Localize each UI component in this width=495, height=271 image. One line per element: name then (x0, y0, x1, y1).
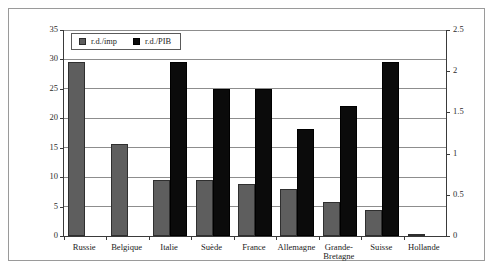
y-axis-left-label: 30 (50, 54, 59, 63)
x-axis-category-label: Russie (63, 243, 105, 252)
bar-rd-imp (111, 144, 128, 236)
x-axis-tickmark (361, 236, 362, 240)
bar-group (149, 30, 191, 236)
y-axis-right-label: 0 (453, 231, 457, 240)
x-axis-tickmark (234, 236, 235, 240)
bar-group (319, 30, 361, 236)
x-axis-tickmark (404, 236, 405, 240)
bar-rd-pib (170, 62, 187, 236)
chart-frame: 0510152025303500.511.522.5 r.d./imp r.d.… (8, 8, 485, 261)
legend-item-rd-imp: r.d./imp (79, 37, 117, 46)
bar-rd-imp (153, 180, 170, 236)
bar-rd-pib (340, 106, 357, 236)
y-axis-left-label: 35 (50, 25, 59, 34)
bar-rd-imp (408, 234, 425, 236)
legend-item-rd-pib: r.d./PIB (133, 37, 171, 46)
y-axis-right-tickmark (446, 71, 450, 72)
legend-label-rd-imp: r.d./imp (91, 37, 117, 46)
y-axis-right-label: 2.5 (453, 25, 464, 34)
x-axis-tickmark (106, 236, 107, 240)
bar-rd-imp (68, 62, 85, 236)
bar-group (106, 30, 148, 236)
y-axis-right-tickmark (446, 30, 450, 31)
bar-rd-imp (196, 180, 213, 236)
x-axis-category-label: Allemagne (275, 243, 317, 252)
bar-group (276, 30, 318, 236)
y-axis-right-label: 2 (453, 66, 457, 75)
x-axis-tickmark (276, 236, 277, 240)
x-axis-category-label: Grande- Bretagne (318, 243, 360, 262)
chart-legend: r.d./imp r.d./PIB (71, 33, 181, 50)
x-axis-category-label: Suède (190, 243, 232, 252)
bar-group (234, 30, 276, 236)
y-axis-right-label: 1 (453, 149, 457, 158)
y-axis-right-tickmark (446, 236, 450, 237)
bar-rd-pib (297, 129, 314, 236)
legend-label-rd-pib: r.d./PIB (145, 37, 171, 46)
bar-rd-imp (280, 189, 297, 236)
y-axis-right-label: 0.5 (453, 190, 464, 199)
x-axis-tickmark (149, 236, 150, 240)
bar-group (191, 30, 233, 236)
y-axis-right-tickmark (446, 112, 450, 113)
x-axis-tickmark (191, 236, 192, 240)
y-axis-left-label: 20 (50, 113, 59, 122)
y-axis-left-label: 10 (50, 172, 59, 181)
y-axis-left-label: 15 (50, 143, 59, 152)
bar-group (64, 30, 106, 236)
y-axis-right-label: 1.5 (453, 107, 464, 116)
y-axis-left-label: 0 (54, 231, 58, 240)
bar-rd-imp (238, 184, 255, 236)
y-axis-right-tickmark (446, 154, 450, 155)
bar-group (404, 30, 446, 236)
bar-rd-imp (323, 202, 340, 236)
x-axis-tickmark (319, 236, 320, 240)
x-axis-category-label: Hollande (403, 243, 445, 252)
bar-rd-imp (365, 210, 382, 236)
x-axis-tickmark (64, 236, 65, 240)
x-axis-category-label: Italie (148, 243, 190, 252)
bar-rd-pib (213, 89, 230, 236)
x-axis-category-label: Belgique (105, 243, 147, 252)
y-axis-left-label: 5 (54, 202, 58, 211)
black-square-icon (133, 38, 140, 45)
plot-area: 0510152025303500.511.522.5 (63, 30, 447, 237)
gray-square-icon (79, 38, 86, 45)
bar-group (361, 30, 403, 236)
bar-rd-pib (255, 89, 272, 236)
y-axis-left-label: 25 (50, 84, 59, 93)
y-axis-right-tickmark (446, 195, 450, 196)
x-axis-category-label: France (233, 243, 275, 252)
x-axis-category-label: Suisse (360, 243, 402, 252)
bar-rd-pib (382, 62, 399, 236)
